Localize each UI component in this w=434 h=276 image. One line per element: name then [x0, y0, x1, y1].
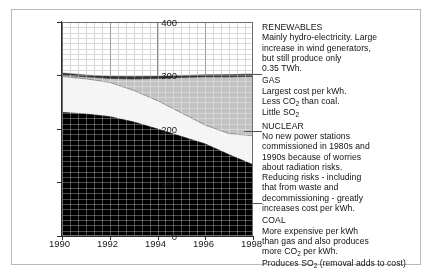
- x-tick-label-1992: 1992: [97, 239, 118, 249]
- x-tick-mark-1998: [253, 236, 254, 240]
- annotations-panel: RENEWABLES Mainly hydro-electricity. Lar…: [262, 22, 422, 270]
- y-tick-label-100: 100: [143, 178, 177, 188]
- x-tick-label-1990: 1990: [49, 239, 70, 249]
- leader-line-nuclear: [244, 131, 262, 132]
- annotation-body-coal: More expensive per kWhthan gas and also …: [262, 226, 422, 269]
- annotation-body-gas: Largest cost per kWh.Less CO2 than coal.…: [262, 86, 422, 119]
- x-tick-mark-1996: [205, 236, 206, 240]
- annotation-body-nuclear: No new power stationscommissioned in 198…: [262, 131, 422, 213]
- annotation-title-coal: COAL: [262, 215, 422, 225]
- y-tick-label-300: 300: [143, 71, 177, 81]
- x-tick-label-1994: 1994: [145, 239, 166, 249]
- x-tick-mark-1992: [110, 236, 111, 240]
- leader-line-coal: [253, 203, 262, 204]
- annotation-body-renewables: Mainly hydro-electricity. Largeincrease …: [262, 32, 422, 73]
- y-tick-mark-300: [57, 75, 62, 76]
- x-tick-mark-1990: [62, 236, 63, 240]
- annotation-title-renewables: RENEWABLES: [262, 22, 422, 32]
- y-tick-label-400: 400: [143, 18, 177, 28]
- annotation-renewables: RENEWABLES Mainly hydro-electricity. Lar…: [262, 22, 422, 73]
- x-tick-label-1998: 1998: [241, 239, 262, 249]
- x-tick-mark-1994: [158, 236, 159, 240]
- annotation-title-gas: GAS: [262, 75, 422, 85]
- y-tick-mark-100: [57, 182, 62, 183]
- y-tick-mark-200: [57, 129, 62, 130]
- chart-screenshot: Electricity (TWh) 400 300 200 100 0: [0, 0, 434, 276]
- annotation-coal: COAL More expensive per kWhthan gas and …: [262, 215, 422, 268]
- annotation-gas: GAS Largest cost per kWh.Less CO2 than c…: [262, 75, 422, 118]
- annotation-nuclear: NUCLEAR No new power stationscommissione…: [262, 121, 422, 214]
- y-tick-mark-400: [57, 22, 62, 23]
- leader-line-gas: [248, 74, 262, 75]
- y-tick-label-200: 200: [143, 125, 177, 135]
- annotation-title-nuclear: NUCLEAR: [262, 121, 422, 131]
- x-tick-label-1996: 1996: [193, 239, 214, 249]
